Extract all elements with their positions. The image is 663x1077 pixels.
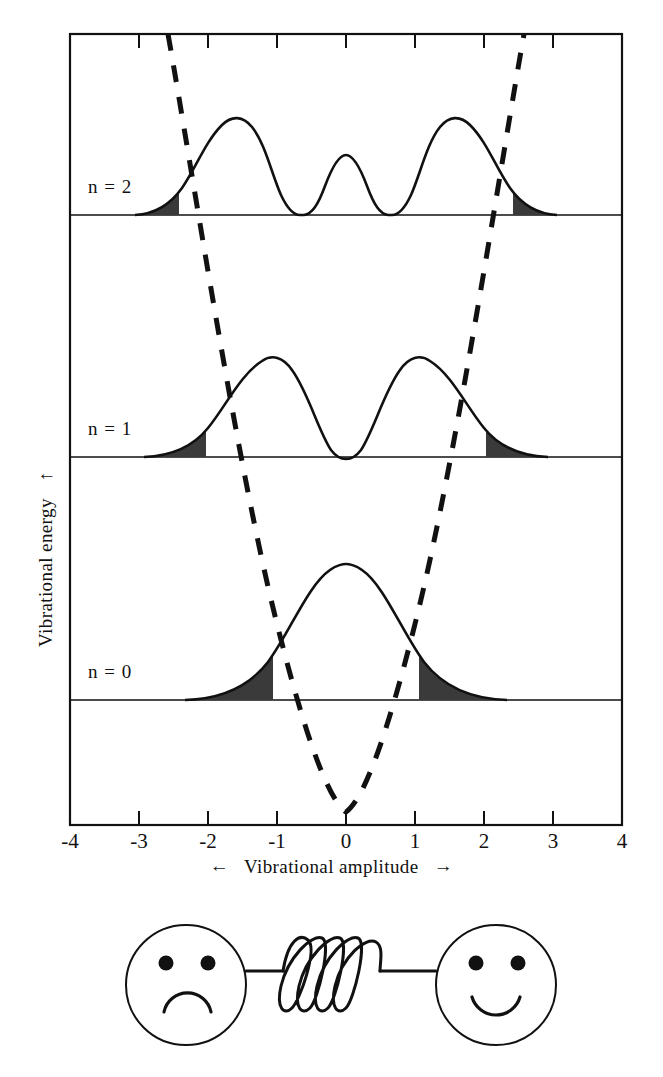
sad-face-icon [126,925,246,1045]
x-tick-label--4: -4 [50,829,90,854]
plot-frame [70,34,622,825]
spring-coil-icon [246,938,436,1012]
x-tick-label-2: 2 [464,829,504,854]
level-label-n0-text: n = 0 [88,661,132,682]
x-tick-label-1: 1 [395,829,435,854]
happy-face-left-eye [469,956,484,971]
happy-face-right-eye [511,956,526,971]
x-axis-label-group: ← Vibrational amplitude → [0,856,663,878]
happy-face-icon [436,925,556,1045]
x-axis-arrow-left-icon: ← [200,855,239,876]
sad-face-left-eye [159,956,174,971]
x-tick-label-0: 0 [326,829,366,854]
x-tick-label-4: 4 [602,829,642,854]
level-label-n2: n = 2 [88,176,132,198]
x-tick-label--1: -1 [257,829,297,854]
x-tick-label-3: 3 [533,829,573,854]
x-tick-label--3: -3 [119,829,159,854]
level-label-n1: n = 1 [88,418,132,440]
x-tick-label--2: -2 [188,829,228,854]
level-label-n0: n = 0 [88,661,132,683]
molecule-cartoon [126,925,556,1045]
x-axis-arrow-right-icon: → [424,855,463,876]
sad-face-right-eye [201,956,216,971]
figure-container: Vibrational energy ↑ n = 2 n = 1 n = 0 -… [0,0,663,1077]
oscillator-figure-svg [0,0,663,1077]
level-label-n2-text: n = 2 [88,176,132,197]
level-label-n1-text: n = 1 [88,418,132,439]
x-axis-label-text: Vibrational amplitude [244,856,419,877]
